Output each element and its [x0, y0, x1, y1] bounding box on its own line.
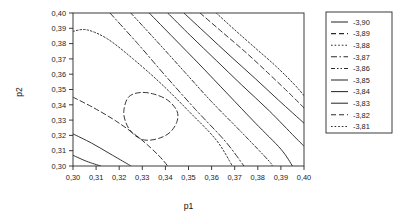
contour-line — [73, 155, 101, 166]
x-axis-tick-labels: 0,300,310,320,330,340,350,360,370,380,39… — [66, 173, 311, 182]
legend-label: -3,84 — [353, 87, 370, 96]
x-tick-label: 0,39 — [274, 173, 288, 182]
y-tick-label: 0,31 — [52, 146, 66, 155]
legend-label: -3,88 — [353, 41, 370, 50]
legend-label: -3,90 — [353, 18, 370, 27]
y-axis-title: p2 — [14, 87, 24, 97]
legend-label: -3,83 — [353, 99, 370, 108]
y-tick-label: 0,39 — [52, 24, 66, 33]
y-axis-tick-labels: 0,300,310,320,330,340,350,360,370,380,39… — [52, 9, 66, 171]
y-tick-label: 0,37 — [52, 55, 66, 64]
figure-svg: 0,300,310,320,330,340,350,360,370,380,39… — [0, 0, 400, 216]
legend-label: -3,82 — [353, 111, 370, 120]
x-axis-tickmarks — [73, 166, 304, 170]
y-tick-label: 0,32 — [52, 131, 66, 140]
y-tick-label: 0,33 — [52, 116, 66, 125]
plot-frame — [73, 13, 304, 166]
x-tick-label: 0,35 — [181, 173, 195, 182]
contour-line — [73, 97, 168, 166]
x-tick-label: 0,38 — [251, 173, 265, 182]
legend-label: -3,86 — [353, 64, 370, 73]
legend-label: -3,87 — [353, 53, 370, 62]
y-tick-label: 0,36 — [52, 70, 66, 79]
contour-line — [149, 13, 292, 166]
contour-line — [124, 92, 178, 140]
x-tick-label: 0,34 — [158, 173, 172, 182]
contour-plot-figure: 0,300,310,320,330,340,350,360,370,380,39… — [0, 0, 400, 216]
y-tick-label: 0,38 — [52, 39, 66, 48]
x-tick-label: 0,31 — [89, 173, 103, 182]
contour-lines — [73, 13, 304, 166]
y-tick-label: 0,34 — [52, 101, 66, 110]
legend-label: -3,81 — [353, 122, 370, 131]
legend-label: -3,89 — [353, 29, 370, 38]
x-tick-label: 0,32 — [112, 173, 126, 182]
contour-line — [73, 134, 131, 166]
x-tick-label: 0,36 — [204, 173, 218, 182]
y-axis-tickmarks — [69, 13, 73, 166]
legend-label: -3,85 — [353, 76, 370, 85]
x-tick-label: 0,30 — [66, 173, 80, 182]
y-tick-label: 0,30 — [52, 162, 66, 171]
y-tick-label: 0,35 — [52, 85, 66, 94]
x-axis-title: p1 — [184, 201, 194, 211]
x-tick-label: 0,40 — [297, 173, 311, 182]
x-tick-label: 0,33 — [135, 173, 149, 182]
x-tick-label: 0,37 — [228, 173, 242, 182]
contour-line — [184, 13, 304, 123]
legend-entries: -3,90-3,89-3,88-3,87-3,86-3,85-3,84-3,83… — [331, 18, 370, 131]
y-tick-label: 0,40 — [52, 9, 66, 18]
contour-line — [131, 13, 272, 166]
